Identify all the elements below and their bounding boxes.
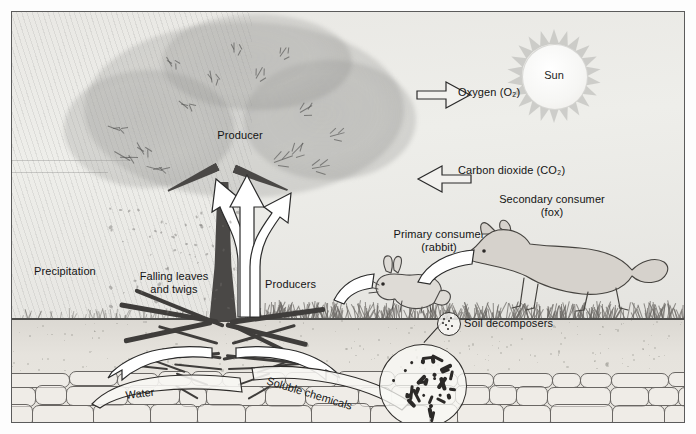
soil-grain xyxy=(550,353,552,355)
soil-grain xyxy=(654,347,656,349)
bedrock-rock xyxy=(32,405,94,423)
bedrock-rock xyxy=(668,372,685,387)
falling-leaf xyxy=(214,298,215,300)
soil-grain xyxy=(577,334,578,335)
soil-grain xyxy=(488,355,489,356)
soil-grain xyxy=(279,321,281,323)
soil-grain xyxy=(488,360,489,361)
canopy-twig xyxy=(147,150,148,158)
falling-leaf xyxy=(119,209,122,212)
precipitation-label: Precipitation xyxy=(34,265,96,278)
bedrock-rock xyxy=(552,373,581,388)
soil-grain xyxy=(492,345,493,346)
producers-label: Producers xyxy=(265,278,316,291)
bedrock-rock xyxy=(664,405,685,423)
grass-to-rabbit-arrow xyxy=(332,270,378,304)
trunk-flow-arrows xyxy=(194,167,304,319)
sun-label: Sun xyxy=(524,69,584,81)
bacterium xyxy=(442,322,444,324)
falling-leaves-label: Falling leaves and twigs xyxy=(124,270,224,296)
soil-grain xyxy=(377,354,379,356)
bacterium xyxy=(448,320,450,322)
soil-grain xyxy=(89,351,91,353)
soil-grain xyxy=(577,326,578,327)
soil-grain xyxy=(472,343,474,345)
grass-blade xyxy=(327,303,328,318)
soil-grain xyxy=(408,332,410,334)
bedrock-rock xyxy=(11,404,33,423)
bacterium xyxy=(450,317,452,319)
bedrock-rock xyxy=(648,387,679,407)
soil-grain xyxy=(82,366,84,368)
canopy-twig xyxy=(175,63,176,69)
soil-grain xyxy=(37,327,38,328)
soil-grain xyxy=(592,352,594,354)
falling-leaf xyxy=(140,290,143,293)
bedrock-rock xyxy=(489,385,517,405)
oxygen-label: Oxygen (O₂) xyxy=(458,86,520,99)
soil-grain xyxy=(474,365,475,366)
soil-grain xyxy=(508,368,510,370)
rabbit-to-fox-arrow xyxy=(416,248,492,284)
bacterium xyxy=(451,325,453,327)
bacterium xyxy=(445,324,447,326)
falling-leaf xyxy=(154,229,157,232)
soil-grain xyxy=(20,370,21,371)
sun-ray xyxy=(549,29,559,44)
soil-grain xyxy=(602,326,603,327)
falling-leaf xyxy=(200,211,202,214)
tree-canopy-lobe-top xyxy=(162,14,352,110)
soil-grain xyxy=(653,324,654,325)
bacterium xyxy=(443,318,445,320)
bedrock-rock xyxy=(678,387,685,407)
soil-grain xyxy=(500,352,502,354)
soil-grain xyxy=(29,335,31,337)
soil-grain xyxy=(606,362,608,364)
soil-grain xyxy=(38,369,40,371)
soil-grain xyxy=(633,359,635,361)
soil-grain xyxy=(102,330,104,332)
water-banner: Water xyxy=(90,370,250,410)
soil-grain xyxy=(594,361,595,362)
soil-grain xyxy=(424,331,426,333)
soil-grain xyxy=(363,348,365,350)
bedrock-rock xyxy=(550,404,613,423)
soil-grain xyxy=(553,325,555,327)
soil-grain xyxy=(448,340,450,342)
soil-grain xyxy=(681,322,682,323)
soil-grain xyxy=(631,320,632,321)
soil-grain xyxy=(64,370,65,371)
soil-grain xyxy=(537,362,538,363)
bedrock-rock xyxy=(516,386,548,406)
soil-grain xyxy=(127,324,128,325)
soil-grain xyxy=(63,359,65,361)
soil-grain xyxy=(116,323,118,325)
bedrock-rock xyxy=(35,385,67,405)
soil-grain xyxy=(85,324,86,325)
soil-grain xyxy=(600,352,601,353)
screenshot-root: Sun Producer Oxygen (O₂) Carbon dioxide … xyxy=(0,0,696,434)
soil-grain xyxy=(71,334,72,335)
sun: Sun xyxy=(506,28,602,124)
falling-leaf xyxy=(132,227,135,229)
soil-grain xyxy=(42,358,43,359)
soil-grain xyxy=(94,330,96,332)
soil-grain xyxy=(378,339,380,341)
soil-grain xyxy=(414,325,415,326)
bedrock-rock xyxy=(580,373,613,388)
bedrock-rock xyxy=(610,387,649,407)
diagram-frame: Sun Producer Oxygen (O₂) Carbon dioxide … xyxy=(11,11,685,423)
bedrock-rock xyxy=(503,405,552,423)
soil-grain xyxy=(506,346,508,348)
producer-label: Producer xyxy=(200,129,280,142)
soil-grain xyxy=(42,325,44,327)
water-banner-text: Water xyxy=(125,386,156,401)
soil-grain xyxy=(653,358,655,360)
bedrock-rock xyxy=(457,404,504,423)
carbon-dioxide-label: Carbon dioxide (CO₂) xyxy=(458,164,565,177)
falling-leaf xyxy=(236,210,240,214)
sun-ray xyxy=(549,108,559,123)
grass-blade xyxy=(69,308,70,318)
bacterium xyxy=(447,328,449,330)
falling-leaf xyxy=(229,220,232,223)
